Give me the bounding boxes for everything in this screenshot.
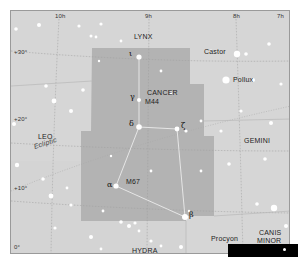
dec-label-0: 0° bbox=[14, 244, 20, 250]
constellation-label-hydra: HYDRA bbox=[132, 247, 158, 254]
star-label-alpha: α bbox=[107, 180, 113, 189]
cancer-region bbox=[81, 48, 214, 221]
star-label-procyon: Procyon bbox=[211, 235, 238, 242]
constellation-label-canis-minor-1: CANIS bbox=[259, 229, 281, 236]
star-label-zeta: ζ bbox=[181, 121, 186, 130]
ra-label-9h: 9h bbox=[145, 13, 152, 19]
star-label-beta: β bbox=[189, 210, 194, 219]
constellation-label-cancer: CANCER bbox=[147, 89, 178, 96]
star-label-delta: δ bbox=[129, 119, 134, 128]
star-label-iota: ι bbox=[129, 49, 132, 58]
star-label-gamma: γ bbox=[130, 92, 135, 101]
ra-label-10h: 10h bbox=[55, 13, 66, 19]
constellation-label-lynx: LYNX bbox=[134, 33, 153, 40]
dso-label-m44: M44 bbox=[145, 98, 159, 105]
constellation-label-canis-minor-2: MINOR bbox=[257, 237, 281, 244]
star-label-pollux: Pollux bbox=[233, 76, 253, 83]
dso-label-m67: M67 bbox=[126, 178, 140, 185]
dec-label-plus10: +10° bbox=[14, 185, 27, 191]
overlay-dot-icon bbox=[283, 248, 286, 251]
black-overlay-box bbox=[228, 244, 298, 257]
star-label-castor: Castor bbox=[204, 48, 226, 55]
dec-label-plus30: +30° bbox=[14, 49, 27, 55]
star-chart: 10h 9h 8h 7h +30° +20° +10° 0° LYNX CANC… bbox=[10, 10, 290, 254]
ra-label-8h: 8h bbox=[233, 13, 240, 19]
dec-label-plus20: +20° bbox=[14, 116, 27, 122]
ra-label-7h: 7h bbox=[277, 13, 284, 19]
constellation-label-gemini: GEMINI bbox=[244, 137, 270, 144]
